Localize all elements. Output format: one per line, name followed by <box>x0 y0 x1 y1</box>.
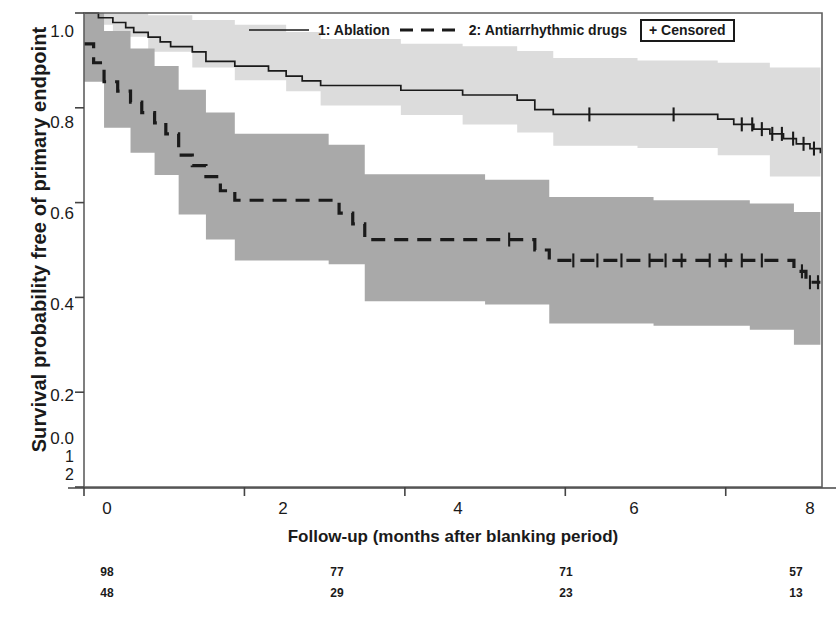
x-axis-label: Follow-up (months after blanking period) <box>84 527 822 547</box>
confidence-bands <box>84 13 820 350</box>
group-row-label-2: 2 <box>44 466 74 484</box>
legend-solid-line-icon <box>248 24 310 36</box>
group-row-label-1: 1 <box>44 448 74 466</box>
x-tick-label-8: 8 <box>780 499 840 519</box>
legend-label-drugs: 2: Antiarrhythmic drugs <box>469 22 627 38</box>
at-risk-row2-col1: 48 <box>77 586 137 600</box>
legend-item-ablation: 1: Ablation <box>248 22 390 38</box>
legend: 1: Ablation 2: Antiarrhythmic drugs + Ce… <box>248 17 735 43</box>
x-tick-label-2: 2 <box>253 499 313 519</box>
at-risk-row2-col2: 29 <box>307 586 367 600</box>
at-risk-row1-col1: 98 <box>77 565 137 579</box>
at-risk-row1-col2: 77 <box>307 565 367 579</box>
x-tick-label-4: 4 <box>428 499 488 519</box>
x-tick-label-6: 6 <box>604 499 664 519</box>
legend-censored-badge: + Censored <box>640 19 735 42</box>
km-survival-figure: Survival probability free of primary end… <box>0 0 840 622</box>
at-risk-row1-col3: 71 <box>536 565 596 579</box>
at-risk-row2-col4: 13 <box>766 586 826 600</box>
x-tick-label-0: 0 <box>77 499 137 519</box>
at-risk-row1-col4: 57 <box>766 565 826 579</box>
legend-dashed-line-icon <box>399 24 461 36</box>
legend-item-drugs: 2: Antiarrhythmic drugs <box>399 22 627 38</box>
y-tick-label-3: 0.6 <box>14 204 74 224</box>
at-risk-row2-col3: 23 <box>536 586 596 600</box>
legend-label-ablation: 1: Ablation <box>318 22 390 38</box>
y-tick-label-4: 0.4 <box>14 295 74 315</box>
y-tick-label-1: 1.0 <box>14 22 74 42</box>
y-tick-label-6: 0.0 <box>14 429 74 449</box>
y-tick-label-2: 0.8 <box>14 113 74 133</box>
y-tick-label-5: 0.2 <box>14 386 74 406</box>
